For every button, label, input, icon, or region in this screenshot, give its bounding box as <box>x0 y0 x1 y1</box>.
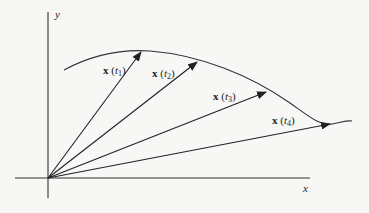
vector-curve-diagram: y x x (t1) x (t2) x (t3) x (t4) <box>0 0 369 213</box>
x-axis-label: x <box>302 182 308 194</box>
vector-label-t4: x (t4) <box>272 114 295 128</box>
trajectory-curve <box>64 51 352 125</box>
vector-label-t2: x (t2) <box>152 67 175 81</box>
vector-arrow-t4 <box>48 124 330 178</box>
vector-label-t1: x (t1) <box>103 64 126 78</box>
vector-label-t3: x (t3) <box>213 90 236 104</box>
vector-arrow-t3 <box>48 92 266 178</box>
vector-arrow-t2 <box>48 62 197 178</box>
y-axis-label: y <box>54 8 60 20</box>
